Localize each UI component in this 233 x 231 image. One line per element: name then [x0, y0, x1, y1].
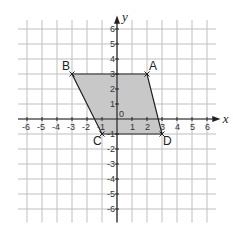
x-tick-label: 4	[175, 122, 180, 132]
x-tick-label: 6	[205, 122, 210, 132]
coordinate-plane-figure: xy-6-5-4-3-2-10123456-6-5-4-3-2-1123456A…	[0, 0, 233, 231]
x-tick-label: 1	[130, 122, 135, 132]
y-tick-label: 6	[110, 24, 115, 34]
y-axis-arrow-icon	[114, 16, 120, 24]
x-tick-label: -6	[22, 122, 30, 132]
y-tick-label: 1	[110, 99, 115, 109]
vertex-label-d: D	[163, 134, 172, 148]
origin-label: 0	[119, 109, 124, 119]
x-axis-arrow-icon	[212, 116, 220, 122]
y-tick-label: -5	[107, 189, 115, 199]
vertex-label-b: B	[62, 59, 70, 73]
x-tick-label: 5	[190, 122, 195, 132]
x-axis-label: x	[222, 111, 229, 126]
y-tick-label: -2	[107, 144, 115, 154]
y-tick-label: -3	[107, 159, 115, 169]
y-tick-label: -1	[107, 129, 115, 139]
vertex-label-c: C	[93, 134, 102, 148]
x-tick-label: -1	[97, 122, 105, 132]
y-tick-label: -6	[107, 204, 115, 214]
y-axis-label: y	[120, 9, 128, 24]
vertex-label-a: A	[149, 59, 157, 73]
x-tick-label: -3	[67, 122, 75, 132]
y-tick-label: 2	[110, 84, 115, 94]
x-tick-label: 2	[145, 122, 150, 132]
y-tick-label: 3	[110, 69, 115, 79]
y-tick-label: 4	[110, 54, 115, 64]
coordinate-grid: xy-6-5-4-3-2-10123456-6-5-4-3-2-1123456A…	[0, 0, 233, 231]
x-tick-label: -4	[52, 122, 60, 132]
x-tick-label: 3	[160, 122, 165, 132]
y-tick-label: -4	[107, 174, 115, 184]
x-tick-label: -2	[82, 122, 90, 132]
x-tick-label: -5	[37, 122, 45, 132]
y-tick-label: 5	[110, 39, 115, 49]
